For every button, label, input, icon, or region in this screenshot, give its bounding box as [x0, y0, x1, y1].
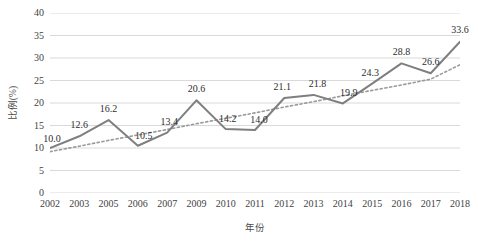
y-axis-tick-label: 30 [18, 53, 44, 63]
x-axis-tick-label: 2003 [69, 198, 89, 210]
x-axis-tick-label: 2012 [274, 198, 294, 210]
x-axis-tick-label: 2009 [186, 198, 206, 210]
x-axis-tick-label: 2015 [362, 198, 382, 210]
x-axis-tick-label: 2006 [128, 198, 148, 210]
line-chart: 比例(%) 0510152025303540 10.012.616.210.51… [0, 0, 478, 243]
y-axis-tick-label: 40 [18, 8, 44, 18]
y-axis-title-text: 比例(%) [5, 85, 19, 119]
gridlines [50, 13, 460, 193]
x-axis-tick-label: 2005 [99, 198, 119, 210]
y-axis-tick-label: 35 [18, 31, 44, 41]
plot-svg [50, 13, 460, 193]
y-axis-tick-label: 15 [18, 121, 44, 131]
y-axis-tick-label: 5 [18, 166, 44, 176]
x-axis-tick-label: 2013 [304, 198, 324, 210]
x-axis-tick-labels: 2002200320052006200720092010201120122013… [50, 198, 460, 214]
y-axis-tick-label: 20 [18, 98, 44, 108]
x-axis-tick-label: 2017 [421, 198, 441, 210]
x-axis-tick-label: 2016 [391, 198, 411, 210]
x-axis-tick-label: 2014 [333, 198, 353, 210]
plot-area: 10.012.616.210.513.420.614.214.021.121.8… [50, 13, 460, 193]
x-axis-tick-label: 2002 [40, 198, 60, 210]
x-axis-tick-label: 2010 [216, 198, 236, 210]
x-axis-title: 年份 [50, 220, 460, 234]
x-axis-tick-label: 2018 [450, 198, 470, 210]
x-axis-tick-label: 2007 [157, 198, 177, 210]
y-axis-tick-label: 0 [18, 188, 44, 198]
y-axis-tick-label: 10 [18, 143, 44, 153]
trendline-series [50, 65, 460, 152]
x-axis-tick-label: 2011 [245, 198, 265, 210]
y-axis-tick-label: 25 [18, 76, 44, 86]
